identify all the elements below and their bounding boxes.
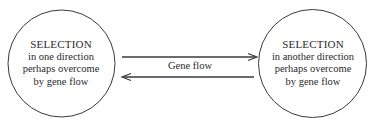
left-node-label: SELECTION in one direction perhaps overc… — [6, 38, 116, 88]
right-node-line-3: by gene flow — [257, 76, 369, 89]
right-node-label: SELECTION in another direction perhaps o… — [257, 38, 369, 88]
right-node-line-1: in another direction — [257, 51, 369, 64]
right-node-line-2: perhaps overcome — [257, 63, 369, 76]
left-node-line-3: by gene flow — [6, 76, 116, 89]
arrow-right-to-left — [122, 74, 254, 81]
left-node-title: SELECTION — [6, 38, 116, 51]
right-node-title: SELECTION — [257, 38, 369, 51]
gene-flow-label: Gene flow — [160, 60, 220, 71]
left-node-line-1: in one direction — [6, 51, 116, 64]
left-node-line-2: perhaps overcome — [6, 63, 116, 76]
